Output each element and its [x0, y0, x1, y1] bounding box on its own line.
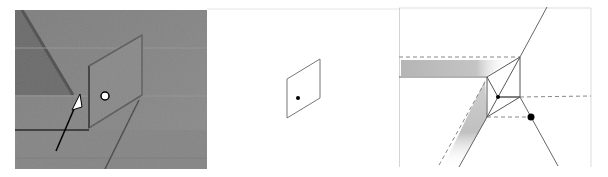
lower-right-crease [520, 97, 558, 166]
crease-pattern-diagram [399, 0, 608, 177]
small-black-dot [496, 95, 500, 99]
crease-edge [487, 77, 498, 97]
schematic-panel [207, 0, 399, 177]
photo-panel [15, 10, 207, 169]
paper-texture [15, 10, 207, 169]
crease-pattern-panel [399, 0, 608, 177]
parallelogram-diagram [207, 0, 399, 177]
right-dashed-line [520, 96, 591, 97]
black-dot [296, 96, 300, 100]
folded-paper-photo [15, 10, 207, 169]
parallelogram-outline [287, 59, 320, 118]
diagonal-shaded-band [443, 80, 487, 167]
large-black-dot [528, 114, 535, 121]
white-marker-dot [101, 92, 109, 100]
upper-right-crease [520, 7, 547, 57]
